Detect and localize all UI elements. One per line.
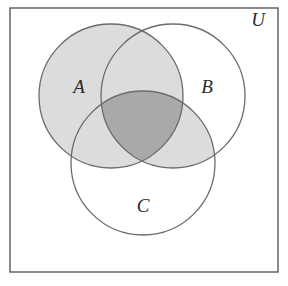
venn-diagram-canvas: A B C U <box>0 0 288 286</box>
universe-label: U <box>251 9 266 30</box>
set-label-c: C <box>137 195 150 216</box>
set-label-a: A <box>71 76 85 97</box>
set-label-b: B <box>201 76 213 97</box>
venn-diagram-figure: A B C U <box>0 0 288 286</box>
